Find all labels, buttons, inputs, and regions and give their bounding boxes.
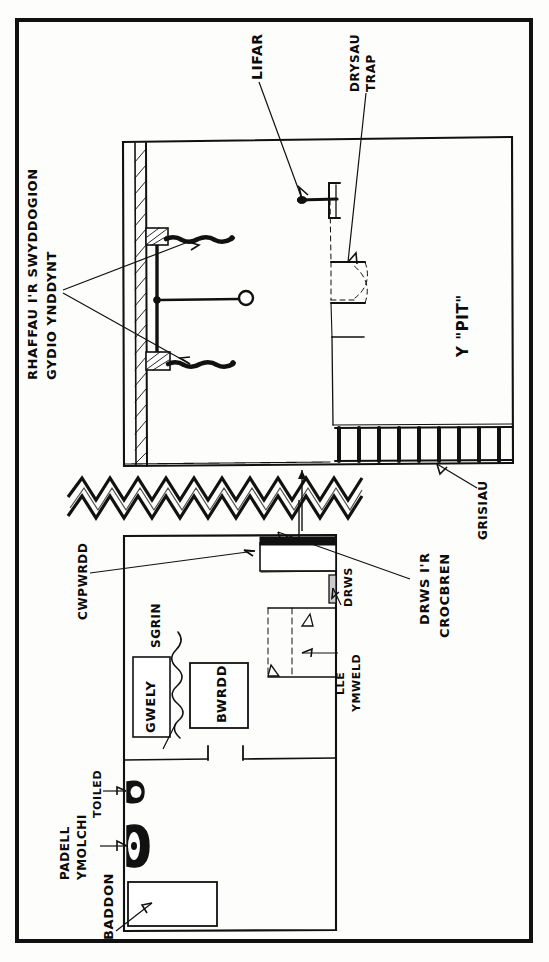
rope-bracket-lower — [146, 352, 170, 370]
label-drysau: DRYSAU — [348, 34, 362, 92]
rope-bracket-upper — [146, 228, 168, 245]
label-gwely: GWELY — [143, 680, 158, 733]
label-drws-crocbren-line2: CROCBREN — [437, 553, 452, 638]
padell-ymolchi-fixture — [127, 825, 149, 867]
stairs-grisiau — [335, 427, 513, 461]
sketch-canvas: RHAFFAU I'R SWYDDOGION GYDIO YNDDYNT LIF… — [0, 0, 549, 962]
baddon-bath — [128, 882, 217, 926]
label-padell: PADELL — [58, 826, 72, 880]
internal-partition — [124, 746, 336, 760]
label-trap: TRAP — [364, 54, 378, 92]
horizontal-rod — [160, 299, 239, 300]
sketch-sheet: RHAFFAU I'R SWYDDOGION GYDIO YNDDYNT LIF… — [0, 0, 549, 962]
arrowhead-rhaffau-upper — [188, 242, 199, 250]
label-rhaffau-line1: RHAFFAU I'R SWYDDOGION — [25, 168, 40, 380]
pit-floor-line — [333, 424, 512, 425]
label-y-pit: Y "PIT" — [454, 294, 472, 358]
zigzag-separator — [68, 478, 362, 518]
left-wall-outer-line — [146, 143, 147, 466]
leader-rhaffau-upper — [63, 242, 188, 290]
rope-upper-end-knob — [230, 236, 235, 241]
label-grisiau: GRISIAU — [476, 480, 490, 540]
rope-lower-end-knob — [231, 361, 236, 366]
toiled-fixture — [127, 781, 144, 803]
cwpwrdd-unit — [260, 537, 336, 572]
rope-lower — [168, 362, 233, 367]
lle-ymweld-area — [268, 608, 336, 677]
label-sgrin: SGRIN — [149, 603, 163, 648]
label-rhaffau-line2: GYDIO YNDDYNT — [44, 251, 59, 380]
label-baddon: BADDON — [101, 873, 116, 940]
rod-ring — [239, 291, 253, 305]
labels: RHAFFAU I'R SWYDDOGION GYDIO YNDDYNT LIF… — [25, 33, 490, 940]
leader-rhaffau-lower — [63, 293, 190, 364]
label-bwrdd: BWRDD — [214, 665, 229, 723]
rope-upper — [166, 237, 231, 242]
sgrin-screen — [172, 632, 183, 738]
label-cwpwrdd: CWPWRDD — [76, 543, 90, 620]
label-drws: DRWS — [342, 567, 355, 607]
leader-cwpwrdd — [90, 551, 255, 573]
trap-doors — [330, 200, 367, 425]
leader-drysau-trap — [348, 93, 366, 262]
wall-hatching — [135, 149, 146, 464]
leader-grisiau — [437, 464, 477, 488]
arrowhead-up-1 — [298, 470, 306, 479]
label-lifar: LIFAR — [249, 33, 265, 80]
lever-assembly — [297, 183, 340, 218]
label-lle: LLE — [334, 672, 347, 695]
arrowhead-cwpwrdd — [244, 550, 255, 556]
label-ymolchi: YMOLCHI — [75, 814, 89, 881]
label-drws-crocbren-line1: DRWS I'R — [417, 552, 432, 625]
label-toiled: TOILED — [91, 770, 104, 818]
label-ymweld: YMWELD — [350, 654, 363, 713]
